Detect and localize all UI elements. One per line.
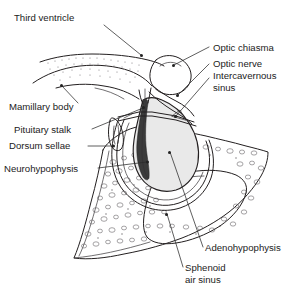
leader-dot-sphenoid-air-sinus bbox=[165, 213, 168, 216]
leader-dot-optic-nerve bbox=[176, 94, 179, 97]
label-sphenoid-air-sinus-cont: air sinus bbox=[185, 274, 221, 285]
label-intercavernous-sinus-cont: sinus bbox=[213, 82, 236, 93]
label-optic-chiasma: Optic chiasma bbox=[213, 42, 274, 53]
label-sphenoid-air-sinus: Sphenoid bbox=[185, 262, 226, 273]
leader-dot-pituitary-stalk bbox=[142, 106, 145, 109]
leader-dot-third-ventricle bbox=[140, 54, 143, 57]
label-third-ventricle: Third ventricle bbox=[14, 12, 74, 23]
label-dorsum-sellae: Dorsum sellae bbox=[9, 140, 70, 151]
label-optic-nerve: Optic nerve bbox=[213, 58, 262, 69]
leader-dot-neurohypophysis bbox=[146, 161, 149, 164]
label-pituitary-stalk: Pituitary stalk bbox=[14, 124, 71, 135]
leader-dot-intercavernous-sinus bbox=[174, 115, 177, 118]
label-mamillary-body: Mamillary body bbox=[9, 101, 74, 112]
label-adenohypophysis: Adenohypophysis bbox=[205, 242, 281, 253]
anatomy-diagram: Third ventricle Mamillary body Pituitary… bbox=[0, 0, 300, 291]
leader-dot-mamillary-body bbox=[60, 84, 63, 87]
label-intercavernous-sinus: Intercavernous bbox=[213, 70, 277, 81]
label-neurohypophysis: Neurohypophysis bbox=[4, 163, 78, 174]
diagram-canvas: Third ventricle Mamillary body Pituitary… bbox=[0, 0, 300, 291]
leader-dot-adenohypophysis bbox=[168, 151, 171, 154]
leader-dot-dorsum-sellae bbox=[112, 145, 115, 148]
leader-dot-optic-chiasma bbox=[172, 64, 175, 67]
